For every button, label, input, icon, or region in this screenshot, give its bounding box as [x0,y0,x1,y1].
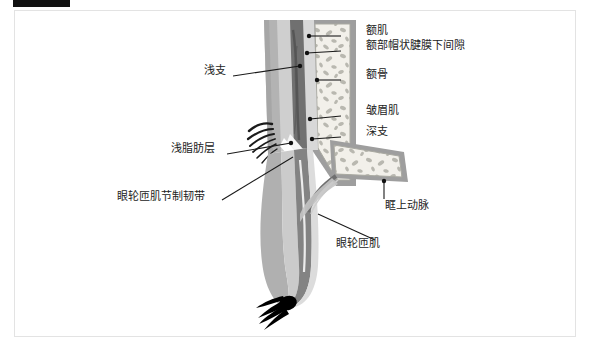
callout-orbicularis-retaining-ligament: 眼轮匝肌节制韧带 [117,190,205,203]
callout-superficial-fat-layer: 浅脂肪层 [171,142,215,155]
eyelashes [256,294,299,330]
callout-frontal-bone: 额骨 [366,68,388,81]
callout-frontalis-muscle: 额肌 [366,24,388,37]
callout-subgaleal-space: 额部帽状腱膜下间隙 [366,39,465,52]
anatomy-illustration [0,0,590,352]
callout-superficial-branch: 浅支 [204,64,226,77]
callout-deep-branch: 深支 [366,125,388,138]
anatomy-figure: 额肌 额部帽状腱膜下间隙 额骨 皱眉肌 深支 眶上动脉 眼轮匝肌 浅支 浅脂肪层… [0,0,590,352]
callout-orbicularis-oculi: 眼轮匝肌 [336,237,380,250]
callout-corrugator-muscle: 皱眉肌 [366,104,399,117]
callout-supraorbital-artery: 眶上动脉 [385,199,429,212]
